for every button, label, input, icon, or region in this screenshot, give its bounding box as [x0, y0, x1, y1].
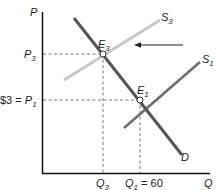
supply-demand-diagram: P Q P3 $3 = P1 Q3 Q1 = 60 S3 S1 D E3 E1 [0, 0, 218, 190]
equilibrium-point-e1 [137, 97, 143, 103]
s1-label: S1 [202, 53, 214, 68]
s3-label: S3 [161, 11, 173, 26]
q3-label: Q3 [96, 177, 110, 190]
q1-label: Q1 = 60 [125, 177, 163, 190]
p1-label: $3 = P1 [0, 94, 37, 109]
supply-curve-s3 [64, 20, 160, 80]
p3-label: P3 [24, 48, 36, 63]
demand-label: D [181, 151, 189, 163]
y-axis-label: P [30, 6, 38, 18]
x-axis-label: Q [204, 177, 213, 189]
guide-lines [43, 54, 140, 173]
shift-arrow-icon [134, 42, 183, 47]
